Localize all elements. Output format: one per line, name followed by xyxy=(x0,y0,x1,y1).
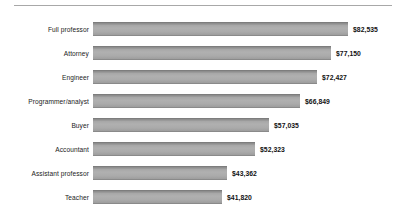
chart-plot-area: Full professor$82,535Attorney$77,150Engi… xyxy=(0,20,408,215)
bar xyxy=(93,70,317,84)
bar-row: Full professor$82,535 xyxy=(0,22,408,36)
bar-value-label: $43,362 xyxy=(232,170,257,177)
category-label: Engineer xyxy=(62,74,89,81)
bar xyxy=(93,166,227,180)
bar-track xyxy=(93,166,227,180)
bar-track xyxy=(93,190,222,204)
bar-value-label: $82,535 xyxy=(353,26,378,33)
bar-row: Buyer$57,035 xyxy=(0,118,408,132)
bar-row: Programmer/analyst$66,849 xyxy=(0,94,408,108)
category-label: Attorney xyxy=(64,50,89,57)
bar-row: Teacher$41,820 xyxy=(0,190,408,204)
bar-value-label: $72,427 xyxy=(322,74,347,81)
bar-track xyxy=(93,70,317,84)
bar xyxy=(93,190,222,204)
bar-value-label: $57,035 xyxy=(274,122,299,129)
bar-value-label: $41,820 xyxy=(227,194,252,201)
category-label: Buyer xyxy=(71,122,89,129)
bar xyxy=(93,22,348,36)
bar-row: Assistant professor$43,362 xyxy=(0,166,408,180)
bar-row: Engineer$72,427 xyxy=(0,70,408,84)
bar-track xyxy=(93,142,255,156)
bar-track xyxy=(93,22,348,36)
bar xyxy=(93,142,255,156)
bar xyxy=(93,94,300,108)
category-label: Teacher xyxy=(65,194,89,201)
top-divider-rule xyxy=(14,5,392,6)
category-label: Programmer/analyst xyxy=(28,98,89,105)
bar-track xyxy=(93,94,300,108)
bar xyxy=(93,118,269,132)
category-label: Full professor xyxy=(48,26,89,33)
bar-track xyxy=(93,118,269,132)
bar-value-label: $77,150 xyxy=(336,50,361,57)
bar-value-label: $52,323 xyxy=(260,146,285,153)
bar xyxy=(93,46,331,60)
category-label: Accountant xyxy=(55,146,89,153)
bar-row: Accountant$52,323 xyxy=(0,142,408,156)
bar-value-label: $66,849 xyxy=(305,98,330,105)
bar-row: Attorney$77,150 xyxy=(0,46,408,60)
bar-track xyxy=(93,46,331,60)
category-label: Assistant professor xyxy=(31,170,89,177)
bar-chart-figure: Full professor$82,535Attorney$77,150Engi… xyxy=(0,0,408,217)
